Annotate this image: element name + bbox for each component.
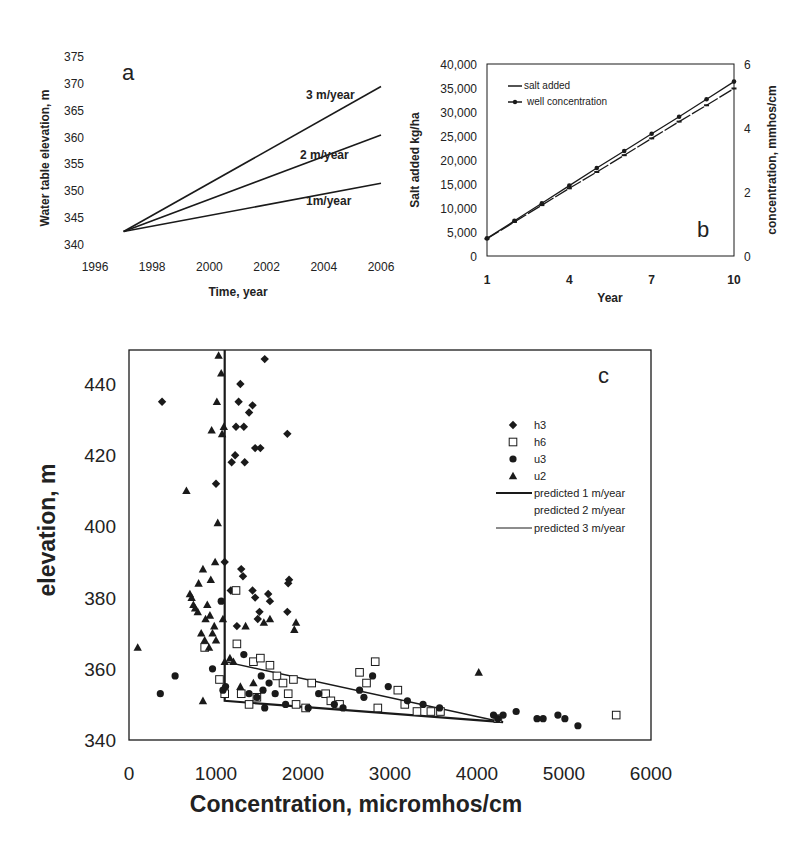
circle-point <box>404 697 411 704</box>
circle-point <box>315 690 322 697</box>
y-tick-label: 5,000 <box>447 226 477 240</box>
triangle-point <box>200 636 208 644</box>
series-u3 <box>157 598 582 730</box>
y-tick-label: 30,000 <box>440 106 477 120</box>
diamond-point <box>248 586 256 594</box>
diamond-point <box>239 572 247 580</box>
triangle-point <box>134 643 142 651</box>
square-point <box>427 708 435 716</box>
predicted-3m-line <box>225 662 503 723</box>
y-axis-title: Water table elevation, m <box>38 90 52 227</box>
diamond-point <box>245 408 253 416</box>
y-axis-title: Salt added kg/ha <box>408 112 422 208</box>
diamond-point <box>158 398 166 406</box>
diamond-point <box>261 355 269 363</box>
triangle-point <box>475 668 483 676</box>
legend-label: predicted 3 m/year <box>534 522 625 534</box>
triangle-point <box>212 636 220 644</box>
x-tick-label: 10 <box>727 273 741 287</box>
panel-letter-b: b <box>697 217 709 242</box>
triangle-point <box>214 351 222 359</box>
square-point <box>266 661 274 669</box>
y-tick-label: 340 <box>84 730 116 751</box>
x-tick-label: 2004 <box>310 260 337 274</box>
circle-point <box>513 708 520 715</box>
y-right-tick-label: 2 <box>744 186 751 200</box>
square-point <box>413 708 421 716</box>
circle-point <box>436 704 443 711</box>
diamond-point <box>234 398 242 406</box>
legend-triangle-icon <box>509 472 517 480</box>
triangle-point <box>206 611 214 619</box>
triangle-point <box>182 487 190 495</box>
plot-frame <box>129 350 651 740</box>
panel-b-salt-concentration-chart: 05,00010,00015,00020,00025,00030,00035,0… <box>408 58 779 305</box>
triangle-point <box>236 682 244 690</box>
circle-marker <box>677 115 682 120</box>
circle-point <box>574 722 581 729</box>
y-tick-label: 440 <box>84 374 116 395</box>
circle-point <box>261 704 268 711</box>
diamond-point <box>232 423 240 431</box>
circle-point <box>157 690 164 697</box>
x-tick-label: 1000 <box>195 763 237 784</box>
circle-point <box>218 598 225 605</box>
triangle-point <box>197 629 205 637</box>
square-point <box>363 679 371 687</box>
circle-marker <box>567 183 572 188</box>
y-tick-label: 360 <box>64 131 84 145</box>
x-tick-label: 2006 <box>368 260 395 274</box>
series-well-concentration <box>487 82 734 239</box>
circle-point <box>282 701 289 708</box>
circle-marker <box>649 131 654 136</box>
triangle-point <box>214 519 222 527</box>
circle-point <box>385 683 392 690</box>
circle-point <box>265 679 272 686</box>
square-point <box>273 672 281 680</box>
x-tick-label: 4000 <box>456 763 498 784</box>
x-tick-label: 0 <box>124 763 135 784</box>
triangle-point <box>292 618 300 626</box>
y-right-tick-label: 0 <box>744 250 751 264</box>
circle-point <box>360 694 367 701</box>
diamond-point <box>256 444 264 452</box>
triangle-point <box>207 426 215 434</box>
square-point <box>232 587 240 595</box>
triangle-point <box>249 679 257 687</box>
square-point <box>308 679 316 687</box>
diamond-point <box>255 608 263 616</box>
circle-marker <box>485 236 490 241</box>
x-tick-label: 1 <box>484 273 491 287</box>
legend-label: u3 <box>534 453 546 465</box>
triangle-point <box>199 565 207 573</box>
triangle-point <box>203 600 211 608</box>
diamond-point <box>237 565 245 573</box>
x-tick-label: 2000 <box>282 763 324 784</box>
circle-point <box>222 683 229 690</box>
square-point <box>279 679 287 687</box>
diamond-point <box>283 608 291 616</box>
legend-label: salt added <box>524 80 570 91</box>
diamond-point <box>212 479 220 487</box>
triangle-point <box>220 422 228 430</box>
rate-annotation: 2 m/year <box>300 148 349 162</box>
y-tick-label: 15,000 <box>440 178 477 192</box>
diamond-point <box>227 458 235 466</box>
y-tick-label: 370 <box>64 77 84 91</box>
x-axis-title: Year <box>597 291 623 305</box>
x-axis-title: Time, year <box>208 285 267 299</box>
triangle-point <box>208 629 216 637</box>
panel-letter-c: c <box>598 363 609 388</box>
triangle-point <box>219 615 227 623</box>
y-tick-label: 375 <box>64 50 84 64</box>
triangle-point <box>211 558 219 566</box>
square-point <box>233 640 241 648</box>
square-point <box>292 701 300 709</box>
figure-canvas: 3403453503553603653703751996199820002002… <box>0 0 806 854</box>
circle-point <box>172 672 179 679</box>
panel-a-water-table-chart: 3403453503553603653703751996199820002002… <box>38 50 395 299</box>
triangle-point <box>241 622 249 630</box>
circle-point <box>240 651 247 658</box>
circle-point <box>339 704 346 711</box>
diamond-point <box>264 590 272 598</box>
